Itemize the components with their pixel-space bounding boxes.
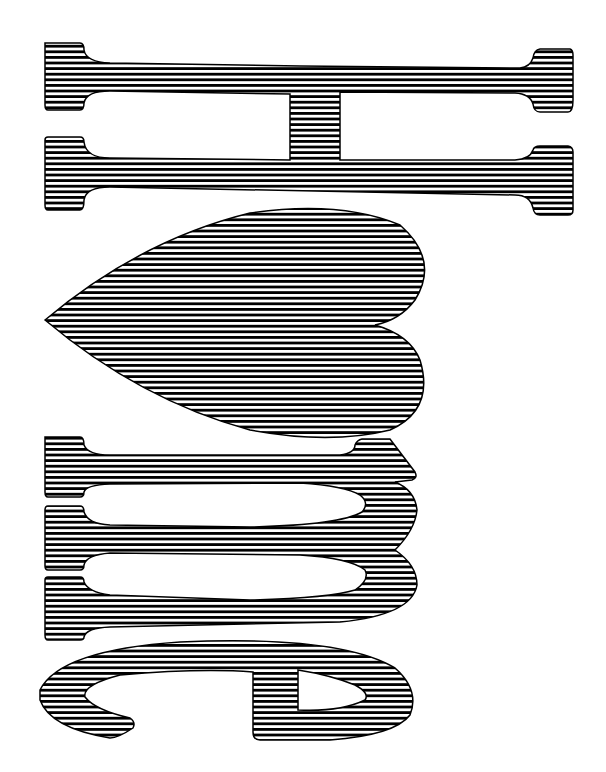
letter-e — [40, 641, 413, 740]
letter-m — [45, 437, 417, 640]
heart-shape — [45, 209, 425, 438]
artwork-svg — [0, 0, 606, 772]
striped-lettering-artwork — [0, 0, 606, 772]
letter-h — [45, 43, 573, 215]
